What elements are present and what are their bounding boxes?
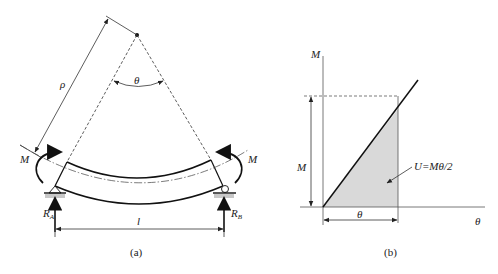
moment-arrow-right (218, 152, 242, 183)
neutral-axis-line (20, 145, 248, 183)
radius-label: ρ (59, 78, 65, 90)
moment-label-right: M (247, 153, 258, 165)
radius-extension-line (106, 16, 137, 35)
reaction-label-left: RA (42, 207, 55, 221)
m-axis-label: M (310, 48, 321, 60)
angle-dimension-label: θ (357, 208, 363, 220)
dashed-radius-right (137, 35, 211, 160)
theta-axis-label: θ (475, 215, 481, 227)
radius-dimension-arrow (35, 19, 108, 152)
beam-left-end (55, 162, 67, 186)
moment-dimension-label: M (296, 161, 307, 173)
beam-bottom-edge (55, 186, 223, 204)
caption-a: (a) (130, 246, 143, 259)
span-label: l (137, 215, 140, 227)
dashed-radius-left (67, 35, 137, 162)
caption-b: (b) (384, 246, 397, 259)
energy-label: U=Mθ/2 (414, 160, 453, 172)
pin-support-left (44, 186, 66, 198)
angle-label: θ (134, 74, 140, 86)
reaction-label-right: RB (230, 207, 243, 221)
panel-a: ρ θ M M RA (19, 16, 258, 259)
beam-bending-figure: ρ θ M M RA (0, 0, 498, 274)
beam-right-end (211, 160, 223, 186)
moment-label-left: M (19, 153, 30, 165)
panel-b: M θ M θ U=Mθ/2 (b) (296, 48, 485, 259)
roller-support-right (213, 186, 236, 199)
